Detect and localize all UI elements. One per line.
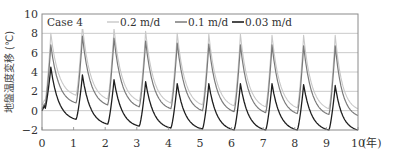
x-tick-label: 7 bbox=[260, 137, 267, 150]
x-tick-label: 5 bbox=[197, 137, 204, 150]
case-label: Case 4 bbox=[47, 16, 83, 28]
x-tick-label: 4 bbox=[165, 137, 172, 150]
y-tick-label: −2 bbox=[22, 124, 38, 137]
x-tick-label: 0 bbox=[39, 137, 46, 150]
y-tick-label: 2 bbox=[31, 85, 38, 98]
legend: 0.2 m/d0.1 m/d0.03 m/d bbox=[107, 16, 292, 28]
y-tick-label: 0 bbox=[31, 105, 38, 118]
x-tick-label: 8 bbox=[291, 137, 298, 150]
x-tick-label: 2 bbox=[102, 137, 109, 150]
x-tick-label: 9 bbox=[323, 137, 330, 150]
legend-item-label: 0.1 m/d bbox=[188, 16, 229, 28]
y-tick-label: 4 bbox=[31, 66, 38, 79]
x-axis-unit: (年) bbox=[362, 136, 382, 150]
y-tick-label: 6 bbox=[31, 47, 38, 60]
legend-item-label: 0.2 m/d bbox=[120, 16, 161, 28]
x-tick-label: 6 bbox=[228, 137, 235, 150]
y-tick-label: 10 bbox=[24, 8, 38, 21]
y-axis-label: 地盤温度変移 (℃) bbox=[3, 31, 15, 113]
x-tick-label: 1 bbox=[70, 137, 77, 150]
series-line bbox=[42, 26, 358, 109]
temperature-chart: −20246810 012345678910 (年) 地盤温度変移 (℃) Ca… bbox=[0, 0, 394, 156]
y-tick-label: 8 bbox=[31, 27, 38, 40]
x-tick-label: 3 bbox=[133, 137, 140, 150]
data-series bbox=[42, 26, 358, 130]
legend-item-label: 0.03 m/d bbox=[245, 16, 292, 28]
y-axis-ticks: −20246810 bbox=[22, 8, 38, 137]
